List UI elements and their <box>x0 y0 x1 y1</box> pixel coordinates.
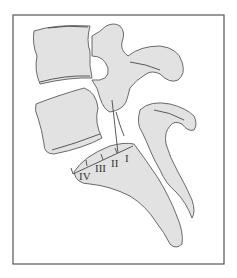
label-zone-i: I <box>125 152 129 164</box>
upper-vertebral-body <box>33 26 92 84</box>
label-zone-iv: IV <box>79 170 91 182</box>
label-zone-iii: III <box>95 162 106 174</box>
spine-diagram: I II III IV <box>0 0 237 278</box>
label-zone-ii: II <box>111 157 119 169</box>
